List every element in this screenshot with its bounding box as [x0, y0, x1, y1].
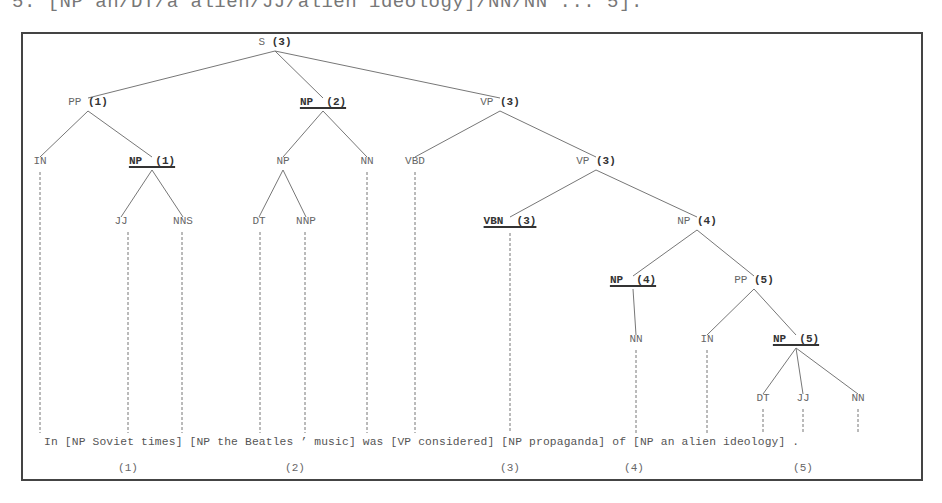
tree-edge	[323, 111, 367, 157]
tree-edge	[754, 289, 796, 335]
tree-edge	[152, 170, 183, 217]
node-tag: VBN (3)	[484, 215, 537, 227]
tree-node-vp3b: VP (3)	[576, 155, 616, 167]
tree-node-jj1: JJ	[114, 215, 127, 227]
tree-edge	[707, 289, 754, 335]
node-tag: NP (4)	[610, 274, 656, 286]
node-chunk-index: (3)	[500, 96, 520, 108]
tree-edge	[275, 51, 500, 98]
node-chunk-index: (5)	[754, 274, 774, 286]
tree-node-in1: IN	[33, 155, 46, 167]
tree-node-np4a: NP (4)	[677, 215, 717, 227]
tree-node-np2: NP (2)	[300, 96, 346, 108]
chunk-number: (3)	[500, 462, 520, 474]
node-tag: VP	[576, 155, 589, 167]
parse-tree-edges	[0, 0, 942, 503]
tree-node-vbd: VBD	[405, 155, 425, 167]
tree-edge	[40, 111, 88, 157]
node-tag: NNS	[173, 215, 193, 227]
node-tag: PP	[734, 274, 747, 286]
chunk-number: (5)	[793, 462, 813, 474]
tree-node-pp5: PP (5)	[734, 274, 774, 286]
node-tag: DT	[756, 392, 769, 404]
tree-node-nn3: NN	[851, 392, 864, 404]
node-tag: NP	[677, 215, 690, 227]
tree-node-in2: IN	[700, 333, 713, 345]
node-chunk-index: (3)	[596, 155, 616, 167]
chunk-number: (1)	[118, 462, 138, 474]
tree-node-vp3a: VP (3)	[480, 96, 520, 108]
tree-node-dt1: DT	[252, 215, 265, 227]
tree-node-dt2: DT	[756, 392, 769, 404]
tree-edge	[121, 170, 152, 217]
node-tag: S	[258, 36, 265, 48]
node-tag: NP	[276, 155, 289, 167]
tree-edge	[763, 348, 796, 394]
tree-edge	[596, 170, 697, 217]
node-tag: NP (1)	[129, 155, 175, 167]
node-tag: NP (2)	[300, 96, 346, 108]
node-chunk-index: (4)	[697, 215, 717, 227]
node-tag: IN	[33, 155, 46, 167]
tree-node-np5: NP (5)	[773, 333, 819, 345]
tree-edge	[259, 170, 283, 217]
tree-node-nns: NNS	[173, 215, 193, 227]
tree-edge	[633, 289, 636, 335]
chunk-number: (2)	[285, 462, 305, 474]
node-tag: VP	[480, 96, 493, 108]
tree-node-npb: NP	[276, 155, 289, 167]
tree-node-np1: NP (1)	[129, 155, 175, 167]
node-tag: DT	[252, 215, 265, 227]
node-chunk-index: (1)	[88, 96, 108, 108]
node-tag: NN	[629, 333, 642, 345]
tree-edge	[88, 51, 275, 98]
tree-edge	[633, 230, 697, 276]
tree-edge	[283, 111, 323, 157]
tree-node-np4b: NP (4)	[610, 274, 656, 286]
node-tag: PP	[68, 96, 81, 108]
tree-edge	[275, 51, 323, 98]
node-chunk-index: (3)	[272, 36, 292, 48]
node-tag: JJ	[114, 215, 127, 227]
node-tag: NNP	[296, 215, 316, 227]
node-tag: VBD	[405, 155, 425, 167]
node-tag: NN	[360, 155, 373, 167]
node-tag: IN	[700, 333, 713, 345]
tree-node-nn2: NN	[629, 333, 642, 345]
tree-node-nn1: NN	[360, 155, 373, 167]
tree-node-vbn: VBN (3)	[484, 215, 537, 227]
tree-edge	[796, 348, 803, 394]
tree-edge	[500, 111, 596, 157]
tree-node-nnp: NNP	[296, 215, 316, 227]
node-tag: JJ	[796, 392, 809, 404]
tree-edge	[88, 111, 152, 157]
tree-node-pp1: PP (1)	[68, 96, 108, 108]
tree-edge	[510, 170, 596, 217]
chunked-sentence: In [NP Soviet times] [NP the Beatles ’ m…	[44, 436, 799, 448]
node-tag: NP (5)	[773, 333, 819, 345]
tree-node-s: S (3)	[258, 36, 291, 48]
tree-edge	[796, 348, 858, 394]
node-tag: NN	[851, 392, 864, 404]
tree-edge	[283, 170, 306, 217]
tree-edge	[697, 230, 754, 276]
tree-node-jj2: JJ	[796, 392, 809, 404]
tree-edge	[415, 111, 500, 157]
chunk-number: (4)	[624, 462, 644, 474]
